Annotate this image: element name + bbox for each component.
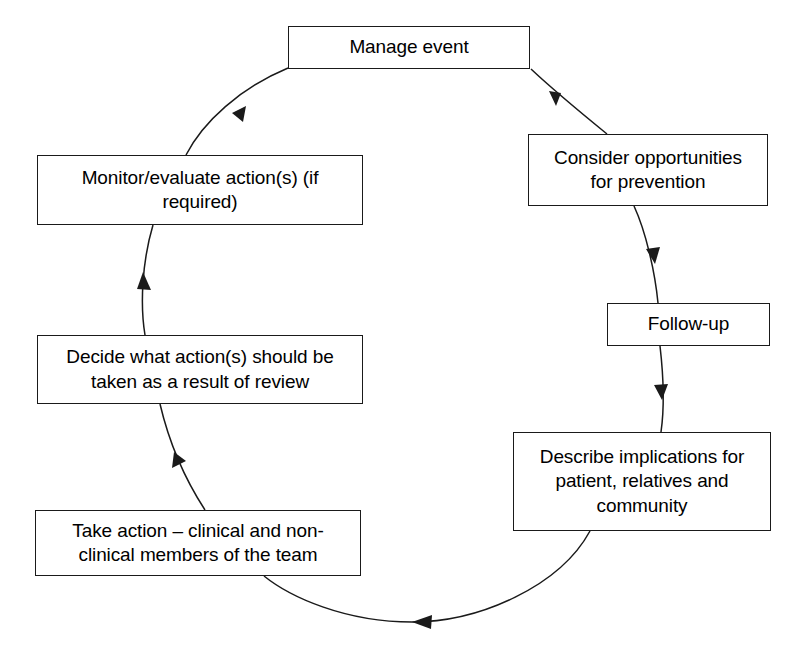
arrowhead-up-right bbox=[232, 106, 246, 122]
node-monitor-evaluate-label: Monitor/evaluate action(s) (if required) bbox=[44, 166, 356, 215]
node-describe-implications-label: Describe implications for patient, relat… bbox=[520, 445, 764, 518]
node-consider-opportunities[interactable]: Consider opportunities for prevention bbox=[528, 134, 768, 206]
arrowhead-left bbox=[412, 615, 432, 629]
cycle-diagram: Manage event Consider opportunities for … bbox=[0, 0, 802, 661]
node-manage-event[interactable]: Manage event bbox=[288, 26, 530, 69]
node-decide-action[interactable]: Decide what action(s) should be taken as… bbox=[37, 335, 363, 404]
node-describe-implications[interactable]: Describe implications for patient, relat… bbox=[513, 432, 771, 531]
arrowhead-down-right bbox=[549, 91, 561, 106]
arrowhead-up bbox=[137, 272, 151, 290]
node-follow-up[interactable]: Follow-up bbox=[607, 303, 770, 346]
node-consider-opportunities-label: Consider opportunities for prevention bbox=[535, 146, 761, 195]
node-decide-action-label: Decide what action(s) should be taken as… bbox=[44, 345, 356, 394]
arrowhead-up-left bbox=[172, 452, 186, 468]
arrowhead-down bbox=[654, 384, 668, 400]
node-manage-event-label: Manage event bbox=[295, 35, 523, 59]
connector-manage-to-consider bbox=[531, 69, 607, 134]
arrowhead-down bbox=[646, 247, 660, 264]
connector-consider-to-followup bbox=[634, 206, 660, 303]
node-monitor-evaluate[interactable]: Monitor/evaluate action(s) (if required) bbox=[37, 155, 363, 225]
node-take-action[interactable]: Take action – clinical and non- clinical… bbox=[35, 510, 361, 576]
node-follow-up-label: Follow-up bbox=[614, 312, 763, 336]
connector-decide-to-monitor bbox=[137, 225, 153, 335]
node-take-action-label: Take action – clinical and non- clinical… bbox=[42, 519, 354, 568]
connector-takeaction-to-decide bbox=[160, 404, 205, 510]
connector-followup-to-describe bbox=[654, 346, 668, 432]
connector-monitor-to-manage bbox=[186, 68, 288, 155]
